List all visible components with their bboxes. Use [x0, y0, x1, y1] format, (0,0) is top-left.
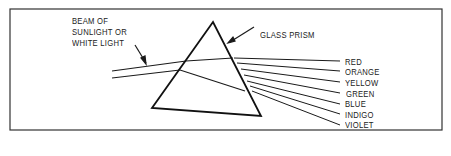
beam-label-line-1: BEAM OF [72, 16, 108, 26]
prism-diagram [0, 0, 451, 156]
beam-label-line-3: WHITE LIGHT [72, 38, 124, 48]
spectrum-label-orange: ORANGE [345, 67, 380, 77]
spectrum-label-blue: BLUE [345, 99, 366, 109]
beam-label-line-2: SUNLIGHT OR [72, 27, 127, 37]
spectrum-label-green: GREEN [346, 89, 374, 99]
spectrum-label-indigo: INDIGO [345, 110, 374, 120]
spectrum-label-violet: VIOLET [345, 120, 374, 130]
white-light-beam [112, 58, 245, 91]
spectrum-label-red: RED [345, 57, 362, 67]
spectrum-label-yellow: YELLOW [345, 78, 378, 88]
prism-label: GLASS PRISM [260, 30, 315, 40]
